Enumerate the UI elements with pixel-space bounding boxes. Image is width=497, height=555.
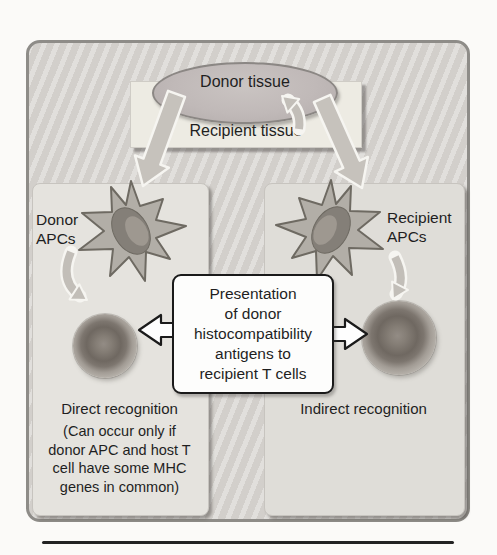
direct-recognition-note: (Can occur only if donor APC and host T … — [28, 422, 211, 496]
figure-canvas: Recipient tissue Donor tissue — [0, 0, 497, 555]
recipient-tissue-label: Recipient tissue — [190, 122, 303, 147]
presentation-line-4: antigens to — [215, 344, 291, 364]
direct-recognition-label: Direct recognition — [32, 400, 207, 417]
presentation-line-5: recipient T cells — [199, 364, 306, 384]
presentation-line-3: histocompatibility — [194, 324, 312, 344]
presentation-box: Presentation of donor histocompatibility… — [172, 274, 334, 394]
donor-apcs-label: Donor APCs — [36, 210, 92, 248]
presentation-line-1: Presentation — [209, 284, 296, 304]
recipient-t-cell-left-icon — [73, 314, 137, 378]
bottom-rule — [42, 541, 454, 544]
donor-tissue-ellipse: Donor tissue — [152, 62, 338, 124]
donor-tissue-label: Donor tissue — [200, 64, 290, 91]
direct-note-line-2: donor APC and host T — [28, 441, 211, 460]
direct-note-line-1: (Can occur only if — [28, 422, 211, 441]
direct-note-line-4: genes in common) — [28, 478, 211, 497]
presentation-line-2: of donor — [225, 304, 282, 324]
recipient-t-cell-right-icon — [362, 301, 436, 375]
recipient-apcs-label: Recipient APCs — [387, 208, 463, 246]
direct-note-line-3: cell have some MHC — [28, 459, 211, 478]
indirect-recognition-label: Indirect recognition — [264, 400, 463, 417]
